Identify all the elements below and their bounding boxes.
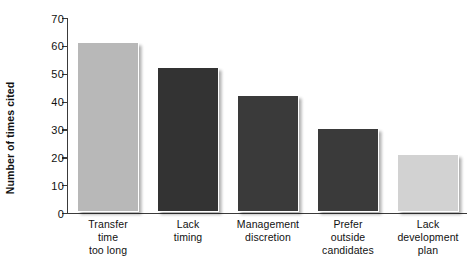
category-label-line: candidates xyxy=(308,244,388,257)
category-label-line: Management xyxy=(228,218,308,231)
y-tick-label: 30 xyxy=(51,124,64,136)
x-axis-category-labels: Transfertimetoo longLacktimingManagement… xyxy=(68,218,468,276)
category-label: Preferoutsidecandidates xyxy=(308,218,388,258)
category-label: Transfertimetoo long xyxy=(68,218,148,258)
y-tick-label: 70 xyxy=(51,13,64,25)
y-tick-label: 40 xyxy=(51,96,64,108)
category-label-line: Prefer xyxy=(308,218,388,231)
y-tick-label: 0 xyxy=(58,208,64,220)
bar-slot xyxy=(397,17,459,212)
category-label-line: time xyxy=(68,231,148,244)
category-label-line: discretion xyxy=(228,231,308,244)
category-label-line: too long xyxy=(68,244,148,257)
category-label-line: timing xyxy=(148,231,228,244)
y-axis-title: Number of times cited xyxy=(0,0,20,276)
bar-slot xyxy=(157,17,219,212)
bar-chart: Number of times cited 706050403020100 Tr… xyxy=(0,0,474,276)
category-label-line: development xyxy=(388,231,468,244)
category-label-line: plan xyxy=(388,244,468,257)
y-tick-label: 10 xyxy=(51,180,64,192)
category-label: Lacktiming xyxy=(148,218,228,244)
bar[interactable] xyxy=(317,128,379,212)
bar[interactable] xyxy=(77,42,139,212)
category-label: Lackdevelopmentplan xyxy=(388,218,468,258)
x-axis-line xyxy=(67,213,467,214)
category-label-line: outside xyxy=(308,231,388,244)
category-label-line: Transfer xyxy=(68,218,148,231)
bar[interactable] xyxy=(237,95,299,212)
bar[interactable] xyxy=(157,67,219,212)
bar-slot xyxy=(317,17,379,212)
category-label: Managementdiscretion xyxy=(228,218,308,244)
bar-slot xyxy=(77,17,139,212)
category-label-line: Lack xyxy=(148,218,228,231)
bar-slot xyxy=(237,17,299,212)
y-tick-label: 20 xyxy=(51,152,64,164)
y-tick-label: 60 xyxy=(51,40,64,52)
category-label-line: Lack xyxy=(388,218,468,231)
plot-area: 706050403020100 xyxy=(68,18,468,213)
bar[interactable] xyxy=(397,154,459,213)
y-tick-label: 50 xyxy=(51,68,64,80)
